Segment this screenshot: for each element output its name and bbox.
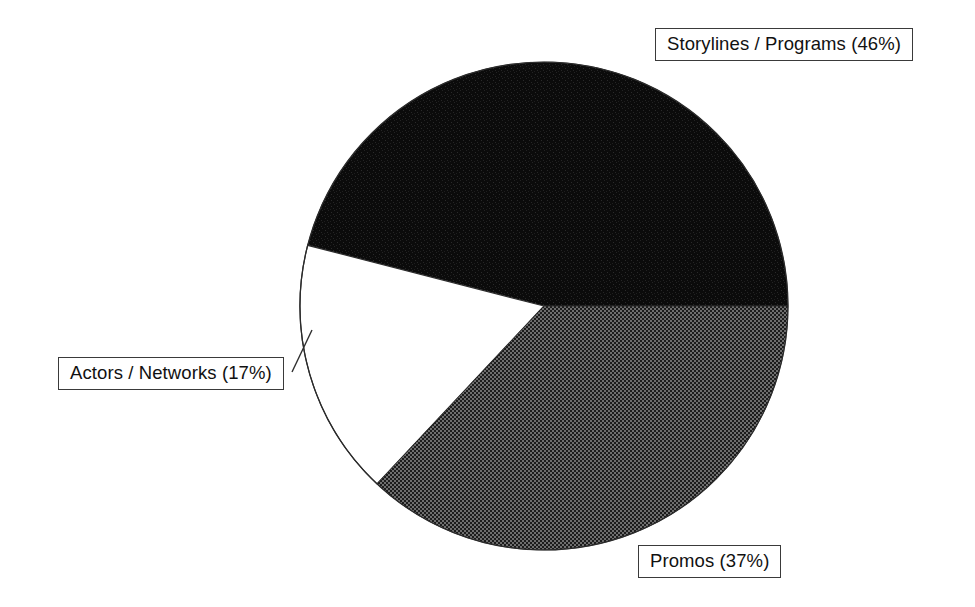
pie-label-promos: Promos (37%): [638, 545, 781, 578]
pie-label-actors-networks: Actors / Networks (17%): [58, 357, 284, 390]
pie-chart-canvas: [0, 0, 975, 607]
pie-label-promos-text: Promos (37%): [650, 552, 769, 571]
pie-label-storylines-programs-text: Storylines / Programs (46%): [667, 35, 901, 54]
pie-label-actors-networks-text: Actors / Networks (17%): [70, 364, 272, 383]
pie-chart-figure: Storylines / Programs (46%) Actors / Net…: [0, 0, 975, 607]
pie-label-storylines-programs: Storylines / Programs (46%): [655, 28, 913, 61]
